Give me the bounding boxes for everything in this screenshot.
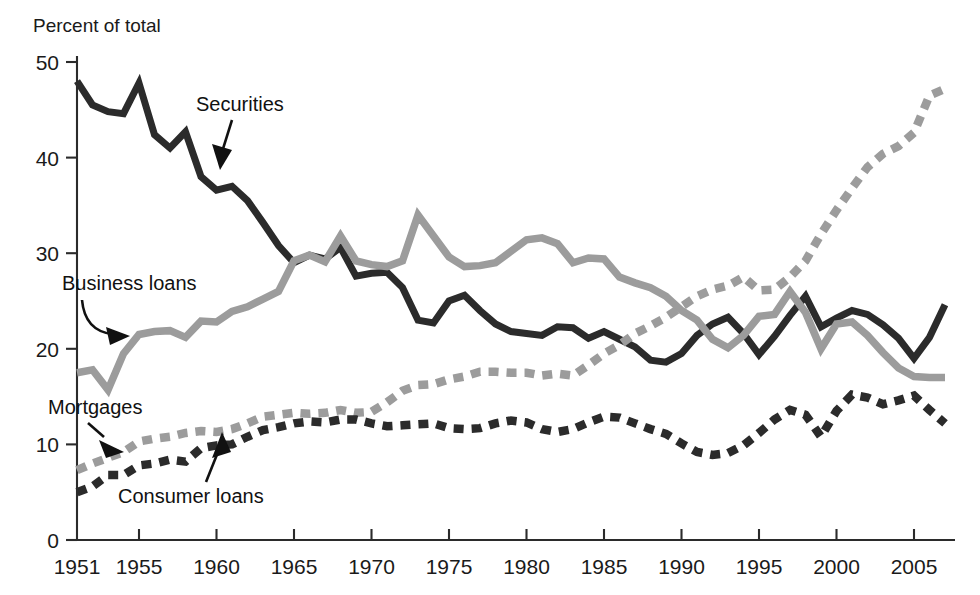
y-tick-label-30: 30 [36,242,59,265]
x-tick-label-1995: 1995 [736,555,783,578]
annotation-securities-label: Securities [196,93,284,115]
x-tick-label-2000: 2000 [813,555,860,578]
x-tick-label-1965: 1965 [271,555,318,578]
series-group [77,81,945,492]
x-axis-tick-labels: 1951195519601965197019751980198519901995… [54,555,938,578]
x-axis-ticks [139,529,914,540]
x-tick-label-1970: 1970 [348,555,395,578]
y-axis-title: Percent of total [33,15,161,36]
y-tick-label-0: 0 [47,529,59,552]
x-tick-label-1955: 1955 [116,555,163,578]
y-tick-label-20: 20 [36,338,59,361]
annotation-securities-arrowhead [212,144,232,170]
x-tick-label-1951: 1951 [54,555,101,578]
x-tick-label-1985: 1985 [581,555,628,578]
chart-figure: Percent of total 01020304050 19511955196… [0,0,980,595]
y-tick-label-50: 50 [36,51,59,74]
annotation-business-loans-arrowhead [106,327,130,345]
annotation-securities: Securities [196,93,284,170]
annotation-mortgages-label: Mortgages [48,396,143,418]
x-tick-label-1975: 1975 [426,555,473,578]
y-axis-tick-labels: 01020304050 [36,51,59,552]
y-tick-label-40: 40 [36,147,59,170]
annotation-securities-leader [222,120,232,152]
x-tick-label-1990: 1990 [658,555,705,578]
x-tick-label-1960: 1960 [193,555,240,578]
y-tick-label-10: 10 [36,433,59,456]
series-line-mortgages [77,89,945,470]
chart-plot-area: Percent of total 01020304050 19511955196… [0,0,980,595]
annotation-mortgages-leader [88,423,104,437]
annotation-consumer-loans-label: Consumer loans [118,485,264,507]
y-axis-ticks [66,62,77,540]
x-tick-label-1980: 1980 [503,555,550,578]
x-tick-label-2005: 2005 [891,555,938,578]
annotation-consumer-loans: Consumer loans [118,432,264,507]
annotation-business-loans-label: Business loans [62,272,197,294]
